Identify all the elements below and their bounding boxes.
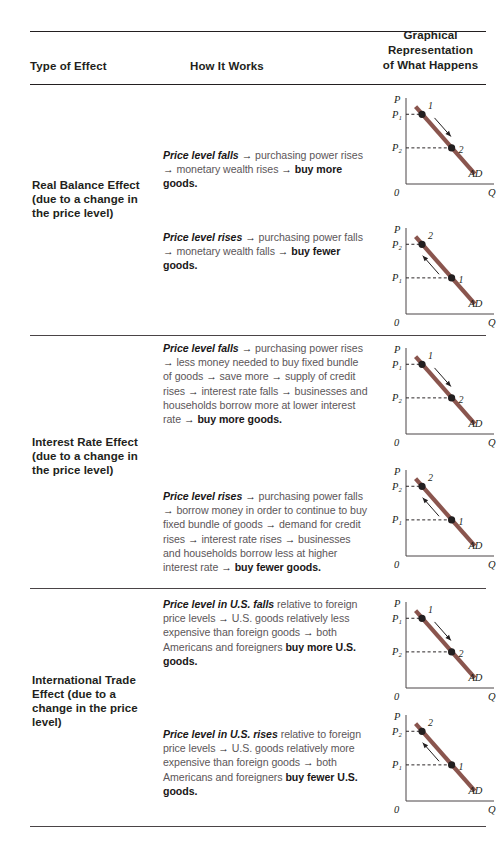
y-axis-label: P	[393, 598, 401, 609]
y-tick-P₁: P₁	[391, 613, 402, 624]
effect-label-real-balance: Real Balance Effect (due to a change in …	[32, 178, 152, 220]
how-it-works-real-balance-rises: Price level rises → purchasing power fal…	[163, 230, 368, 273]
ad-curve-label: AD	[467, 672, 482, 683]
graph-interest-rate-rises: 2P₂1P₁PQ0AD	[380, 460, 498, 578]
point-label-2: 2	[428, 230, 433, 241]
data-point-1	[448, 761, 455, 768]
point-label-2: 2	[459, 144, 464, 155]
how-it-works-international-falls: Price level in U.S. falls relative to fo…	[163, 597, 368, 668]
how-it-works-interest-rate-falls: Price level falls → purchasing power ris…	[163, 341, 368, 426]
how-it-works-interest-rate-rises: Price level rises → purchasing power fal…	[163, 489, 368, 574]
row-divider-3	[30, 826, 486, 827]
y-tick-P₁: P₁	[391, 514, 402, 525]
y-axis-label: P	[393, 466, 401, 477]
point-label-2: 2	[459, 648, 464, 659]
effect-label-interest-rate: Interest Rate Effect (due to a change in…	[32, 435, 152, 477]
header-bottom-rule	[30, 84, 486, 85]
y-tick-P₂: P₂	[391, 646, 402, 657]
column-header-graphical-line3: of What Happens	[368, 58, 493, 73]
column-header-graphical: Graphical Representation of What Happens	[368, 28, 493, 73]
column-header-type-of-effect: Type of Effect	[30, 60, 160, 72]
origin-label: 0	[394, 437, 400, 448]
x-axis-label: Q	[488, 691, 496, 702]
data-point-1	[418, 111, 425, 118]
graph-interest-rate-falls: 1P₁2P₂PQ0AD	[380, 338, 498, 456]
point-label-1: 1	[428, 100, 433, 111]
data-point-1	[418, 615, 425, 622]
ad-curve-label: AD	[467, 168, 482, 179]
y-tick-P₂: P₂	[391, 481, 402, 492]
point-label-1: 1	[428, 350, 433, 361]
data-point-2	[448, 144, 455, 151]
x-axis-label: Q	[488, 437, 496, 448]
y-axis-label: P	[393, 224, 401, 235]
origin-label: 0	[394, 691, 400, 702]
point-label-1: 1	[459, 274, 464, 285]
y-axis-label: P	[393, 94, 401, 105]
table-header: Graphical Representation of What Happens…	[0, 0, 500, 92]
column-header-how-it-works: How It Works	[190, 60, 340, 72]
ad-curve-label: AD	[467, 298, 482, 309]
y-tick-P₂: P₂	[391, 239, 402, 250]
how-it-works-real-balance-falls: Price level falls → purchasing power ris…	[163, 148, 368, 191]
y-axis-label: P	[393, 344, 401, 355]
ad-curve-label: AD	[467, 540, 482, 551]
graph-international-rises: 2P₂1P₁PQ0AD	[380, 705, 498, 823]
point-label-2: 2	[428, 717, 433, 728]
origin-label: 0	[394, 804, 400, 815]
data-point-1	[418, 361, 425, 368]
data-point-2	[418, 483, 425, 490]
row-divider-2	[30, 588, 486, 589]
point-label-1: 1	[459, 761, 464, 772]
how-it-works-international-rises: Price level in U.S. rises relative to fo…	[163, 727, 368, 798]
y-axis-label: P	[393, 711, 401, 722]
x-axis-label: Q	[488, 317, 496, 328]
y-tick-P₂: P₂	[391, 392, 402, 403]
point-label-2: 2	[459, 394, 464, 405]
y-tick-P₁: P₁	[391, 759, 402, 770]
graph-international-falls: 1P₁2P₂PQ0AD	[380, 592, 498, 710]
ad-curve-label: AD	[467, 418, 482, 429]
data-point-2	[448, 394, 455, 401]
y-tick-P₁: P₁	[391, 109, 402, 120]
ad-curve-label: AD	[467, 785, 482, 796]
x-axis-label: Q	[488, 804, 496, 815]
origin-label: 0	[394, 187, 400, 198]
effect-label-international-trade: International Trade Effect (due to a cha…	[32, 673, 152, 729]
graph-real-balance-rises: 2P₂1P₁PQ0AD	[380, 218, 498, 336]
data-point-2	[418, 728, 425, 735]
y-tick-P₂: P₂	[391, 726, 402, 737]
point-label-2: 2	[428, 472, 433, 483]
origin-label: 0	[394, 317, 400, 328]
point-label-1: 1	[428, 604, 433, 615]
column-header-graphical-line1: Graphical	[368, 28, 493, 43]
data-point-2	[448, 648, 455, 655]
data-point-2	[418, 241, 425, 248]
point-label-1: 1	[459, 516, 464, 527]
y-tick-P₂: P₂	[391, 142, 402, 153]
x-axis-label: Q	[488, 559, 496, 570]
graph-real-balance-falls: 1P₁2P₂PQ0AD	[380, 88, 498, 206]
x-axis-label: Q	[488, 187, 496, 198]
y-tick-P₁: P₁	[391, 359, 402, 370]
row-divider-1	[30, 335, 486, 336]
y-tick-P₁: P₁	[391, 272, 402, 283]
origin-label: 0	[394, 559, 400, 570]
data-point-1	[448, 516, 455, 523]
table-figure: Graphical Representation of What Happens…	[0, 0, 500, 843]
column-header-graphical-line2: Representation	[368, 43, 493, 58]
data-point-1	[448, 274, 455, 281]
